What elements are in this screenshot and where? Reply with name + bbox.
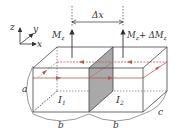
dim-a-label: a xyxy=(22,84,27,94)
current-arrow-diag-left xyxy=(42,70,47,75)
y-axis-label: y xyxy=(32,24,39,34)
moment-right-label: Mz+ ΔMz xyxy=(126,30,168,41)
current-arrow-back-right xyxy=(127,60,132,64)
current-i2-label: I2 xyxy=(115,94,124,106)
delta-x-label: Δx xyxy=(91,10,104,20)
shaded-interface-plane xyxy=(89,47,113,112)
dim-c-label: c xyxy=(158,107,163,117)
magnetization-diagram: z y x Δx Mz Mz+ ΔMz xyxy=(0,0,182,136)
x-axis-label: x xyxy=(37,39,42,49)
moment-left-label: Mz xyxy=(51,30,65,41)
dim-b-left-label: b xyxy=(58,120,64,130)
y-axis-arrow xyxy=(20,34,33,44)
current-arrow-front-left xyxy=(56,76,61,80)
dim-b-right-label: b xyxy=(113,120,119,130)
z-axis-label: z xyxy=(9,22,15,32)
current-arrow-back-left xyxy=(79,60,84,64)
arc-a xyxy=(27,66,34,114)
current-i1-label: I1 xyxy=(57,94,66,106)
